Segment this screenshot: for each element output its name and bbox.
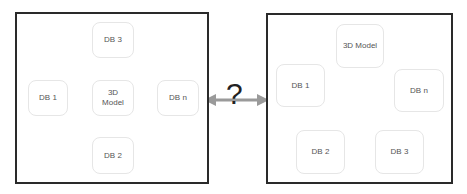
node-label: DB 3 xyxy=(104,35,122,45)
node-label: DB 2 xyxy=(104,151,122,161)
question-mark: ? xyxy=(226,77,243,111)
node-label: 3D Model xyxy=(102,88,124,108)
node-label: DB 3 xyxy=(391,147,409,157)
left-node-3d-model: 3D Model xyxy=(92,80,134,116)
left-node-db2: DB 2 xyxy=(92,137,134,174)
node-label: DB n xyxy=(169,93,187,103)
left-node-dbn: DB n xyxy=(157,80,199,116)
node-label: DB 2 xyxy=(312,147,330,157)
node-label: DB n xyxy=(410,86,428,96)
right-node-3d-model: 3D Model xyxy=(336,24,384,68)
right-node-dbn: DB n xyxy=(394,69,444,112)
left-node-db3: DB 3 xyxy=(92,22,134,58)
node-label: DB 1 xyxy=(39,93,57,103)
right-node-db2: DB 2 xyxy=(296,130,345,174)
node-label: DB 1 xyxy=(292,81,310,91)
left-node-db1: DB 1 xyxy=(28,80,68,116)
right-node-db3: DB 3 xyxy=(375,130,424,174)
node-label: 3D Model xyxy=(343,41,377,51)
right-node-db1: DB 1 xyxy=(276,64,325,107)
